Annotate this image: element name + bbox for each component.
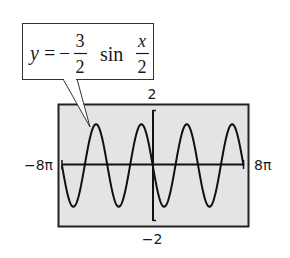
xmin-label: −8π (24, 157, 54, 173)
equation-lhs: y (28, 42, 39, 65)
ymin-label: −2 (142, 231, 163, 247)
arg-numerator: x (137, 31, 146, 51)
equation-minus: − (59, 42, 70, 64)
ymax-label: 2 (148, 86, 157, 102)
graph-figure: y = − 3 2 sin x 2 2 −2 −8π 8π (0, 0, 290, 258)
equation-sin: sin (100, 43, 123, 65)
coef-numerator: 3 (76, 31, 85, 51)
equation-equals: = (44, 42, 55, 64)
coef-denominator: 2 (76, 57, 85, 77)
arg-denominator: 2 (138, 57, 147, 77)
xmax-label: 8π (254, 157, 272, 173)
equation-callout (23, 24, 154, 80)
